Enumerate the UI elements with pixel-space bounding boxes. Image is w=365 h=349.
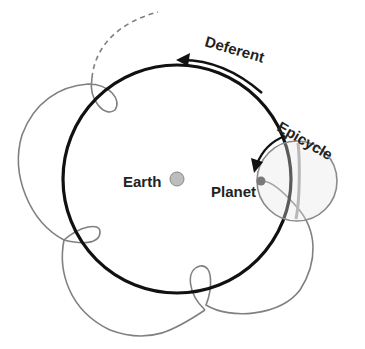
diagram-labels: Deferent Epicycle Earth Planet [0, 0, 365, 349]
planet-label: Planet [211, 183, 256, 200]
earth-label: Earth [123, 173, 161, 190]
deferent-label: Deferent [203, 33, 266, 66]
epicycle-label: Epicycle [275, 118, 336, 163]
